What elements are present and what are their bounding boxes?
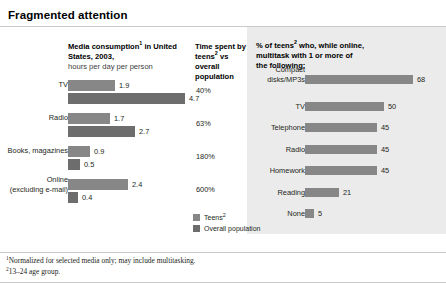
multitask-value-radio: 45: [381, 145, 389, 154]
multitask-value-homework: 45: [381, 166, 389, 175]
multitask-header-line1: % of teens2 who, while online,: [256, 41, 438, 51]
multitask-row-tv: TV 50: [247, 102, 446, 111]
multitask-bar-homework: [305, 166, 377, 175]
legend-swatch-teens-icon: [193, 214, 200, 221]
footnote-2-text: 13–24 age group.: [9, 267, 61, 276]
media-value-overall-online: 0.4: [82, 193, 92, 202]
time-percent-online: 600%: [196, 185, 215, 194]
footnote-1: 1Normalized for selected media only; may…: [6, 256, 195, 267]
multitask-row-radio: Radio 45: [247, 145, 446, 154]
media-bar-teens-online: [68, 179, 128, 190]
media-value-teens-books: 0.9: [94, 147, 104, 156]
multitask-value-none: 5: [318, 209, 322, 218]
multitask-category-label-homework: Homework: [270, 166, 305, 176]
media-bar-teens-radio: [68, 113, 110, 124]
media-category-label-online: Online (excluding e-mail): [10, 175, 68, 194]
multitask-header-rest: who, while online,: [297, 41, 364, 50]
multitask-value-telephone: 45: [381, 123, 389, 132]
multitask-bar-radio: [305, 145, 377, 154]
footnote-1-text: Normalized for selected media only; may …: [9, 256, 196, 265]
time-header-line2: teens2 vs overall: [195, 52, 247, 72]
media-group-online: Online (excluding e-mail) 2.4 0.4 600%: [0, 179, 247, 212]
multitask-bar-none: [305, 209, 314, 218]
multitask-row-homework: Homework 45: [247, 166, 446, 175]
media-consumption-chart: TV 1.9 4.7 40% Radio 1.7: [0, 80, 247, 212]
multitask-bar-tv: [305, 102, 384, 111]
multitask-value-reading: 21: [343, 188, 351, 197]
multitask-category-label-none: None: [287, 209, 305, 219]
divider-bottom: [0, 252, 446, 253]
multitask-bar-reading: [305, 188, 339, 197]
time-header-teens: teens: [195, 52, 215, 61]
multitask-category-label-telephone: Telephone: [271, 123, 305, 133]
multitask-header-pct: % of teens: [256, 41, 294, 50]
media-bar-overall-online: [68, 192, 78, 203]
figure-root: Fragmented attention Media consumption1 …: [0, 0, 446, 283]
legend-swatch-overall-icon: [193, 225, 200, 232]
legend-label-teens: Teens2: [204, 214, 226, 221]
time-percent-books: 180%: [196, 152, 215, 161]
multitask-category-label-reading: Reading: [277, 188, 305, 198]
time-column-header: Time spent by teens2 vs overall populati…: [195, 42, 247, 82]
media-bar-teens-tv: [68, 80, 115, 91]
time-percent-tv: 40%: [196, 86, 211, 95]
media-category-label-books: Books, magazines: [8, 146, 68, 156]
media-category-label-tv: TV: [59, 80, 68, 90]
footnote-2: 213–24 age group.: [6, 267, 195, 278]
media-category-label-radio: Radio: [49, 113, 68, 123]
media-value-teens-tv: 1.9: [119, 81, 129, 90]
media-value-teens-radio: 1.7: [114, 114, 124, 123]
media-value-overall-books: 0.5: [84, 160, 94, 169]
multitask-row-telephone: Telephone 45: [247, 123, 446, 132]
media-category-label-online-line1: Online: [10, 175, 68, 185]
multitask-row-reading: Reading 21: [247, 188, 446, 197]
multitask-bar-compact-disks: [305, 75, 413, 84]
media-group-radio: Radio 1.7 2.7 63%: [0, 113, 247, 146]
media-bar-overall-books: [68, 159, 80, 170]
media-column-header: Media consumption1 in United States, 200…: [68, 42, 188, 72]
multitask-row-compact-disks: Compact disks/MP3s 68: [247, 70, 446, 89]
multitask-bar-telephone: [305, 123, 377, 132]
multitask-chart: Compact disks/MP3s 68 TV 50 Telephone 45…: [247, 70, 446, 231]
page-title: Fragmented attention: [8, 9, 128, 21]
legend-teens-footnote-marker: 2: [223, 212, 226, 218]
legend-label-teens-text: Teens: [204, 214, 223, 221]
media-value-teens-online: 2.4: [132, 180, 142, 189]
multitask-header-line2: multitask with 1 or more of: [256, 51, 438, 61]
footnotes: 1Normalized for selected media only; may…: [6, 256, 195, 277]
media-bar-teens-books: [68, 146, 90, 157]
time-header-line1: Time spent by: [195, 42, 247, 52]
media-header-subtitle: hours per day per person: [68, 62, 188, 72]
multitask-category-compact-line1: Compact: [267, 65, 305, 75]
multitask-category-label-compact-disks: Compact disks/MP3s: [267, 65, 305, 84]
media-bar-overall-radio: [68, 126, 135, 137]
multitask-value-tv: 50: [388, 102, 396, 111]
multitask-category-label-radio: Radio: [286, 145, 305, 155]
media-category-label-online-line2: (excluding e-mail): [10, 185, 68, 195]
time-percent-radio: 63%: [196, 119, 211, 128]
media-value-overall-radio: 2.7: [139, 127, 149, 136]
multitask-category-compact-line2: disks/MP3s: [267, 75, 305, 85]
media-bar-overall-tv: [68, 93, 185, 104]
multitask-value-compact-disks: 68: [417, 75, 425, 84]
media-header-text: Media consumption: [68, 42, 139, 51]
media-group-tv: TV 1.9 4.7 40%: [0, 80, 247, 113]
multitask-category-label-tv: TV: [296, 102, 305, 112]
multitask-row-none: None 5: [247, 209, 446, 218]
